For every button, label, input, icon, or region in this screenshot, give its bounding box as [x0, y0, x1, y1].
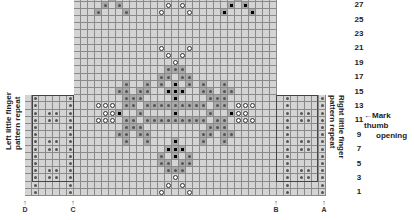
grid-cell: [130, 0, 137, 2]
grid-cell: [179, 45, 186, 52]
grid-cell: [263, 66, 270, 73]
grid-cell: [186, 102, 193, 109]
grid-cell: [214, 153, 221, 160]
grid-cell: [207, 138, 214, 145]
grid-cell: [256, 38, 263, 45]
grid-cell: [193, 2, 200, 9]
dot-stitch-icon: [321, 112, 324, 115]
dot-stitch-icon: [223, 97, 226, 100]
dot-stitch-icon: [34, 104, 37, 107]
dot-stitch-icon: [146, 104, 149, 107]
dot-stitch-icon: [160, 162, 163, 165]
grid-cell: [172, 131, 179, 138]
dot-stitch-icon: [97, 11, 100, 14]
dot-stitch-icon: [286, 148, 289, 151]
grid-cell: [298, 95, 305, 102]
dot-stitch-icon: [286, 176, 289, 179]
grid-cell: [179, 2, 186, 9]
grid-cell: [165, 81, 172, 88]
grid-cell: [221, 189, 228, 196]
grid-cell: [25, 138, 32, 145]
dot-stitch-icon: [230, 133, 233, 136]
grid-cell: [116, 189, 123, 196]
grid-cell: [158, 146, 165, 153]
grid-cell: [102, 81, 109, 88]
grid-cell: [130, 45, 137, 52]
grid-cell: [165, 182, 172, 189]
grid-cell: [88, 167, 95, 174]
grid-cell: [116, 81, 123, 88]
row-label: 1: [352, 187, 366, 196]
grid-cell: [214, 110, 221, 117]
grid-cell: [298, 124, 305, 131]
grid-cell: [123, 138, 130, 145]
left-label: Left little finger pattern repeat: [4, 92, 22, 150]
grid-cell: [158, 117, 165, 124]
dot-stitch-icon: [216, 104, 219, 107]
grid-cell: [25, 189, 32, 196]
dot-stitch-icon: [69, 104, 72, 107]
grid-cell: [312, 160, 319, 167]
dot-stitch-icon: [223, 133, 226, 136]
grid-cell: [249, 95, 256, 102]
grid-cell: [221, 0, 228, 2]
grid-cell: [102, 182, 109, 189]
dot-stitch-icon: [195, 104, 198, 107]
grid-cell: [186, 74, 193, 81]
marker-c: ↑C: [68, 199, 78, 213]
grid-cell: [291, 102, 298, 109]
grid-cell: [179, 117, 186, 124]
grid-cell: [242, 138, 249, 145]
grid-cell: [207, 81, 214, 88]
grid-cell: [95, 59, 102, 66]
grid-cell: [256, 9, 263, 16]
dot-stitch-icon: [69, 119, 72, 122]
black-stitch-icon: [118, 112, 121, 115]
grid-cell: [53, 189, 60, 196]
grid-cell: [214, 0, 221, 2]
grid-cell: [256, 95, 263, 102]
grid-cell: [60, 167, 67, 174]
grid-cell: [221, 59, 228, 66]
grid-cell: [312, 95, 319, 102]
grid-cell: [193, 45, 200, 52]
grid-cell: [165, 59, 172, 66]
dot-stitch-icon: [125, 11, 128, 14]
left-label-line1: Left little finger: [4, 92, 13, 150]
grid-cell: [270, 23, 277, 30]
grid-cell: [305, 124, 312, 131]
grid-cell: [312, 124, 319, 131]
grid-cell: [228, 16, 235, 23]
grid-cell: [256, 182, 263, 189]
grid-cell: [249, 81, 256, 88]
grid-cell: [298, 110, 305, 117]
grid-cell: [256, 110, 263, 117]
grid-cell: [25, 182, 32, 189]
dot-stitch-icon: [174, 169, 177, 172]
grid-cell: [81, 124, 88, 131]
dot-stitch-icon: [34, 184, 37, 187]
grid-cell: [179, 124, 186, 131]
grid-cell: [172, 23, 179, 30]
grid-cell: [137, 9, 144, 16]
grid-cell: [270, 160, 277, 167]
grid-cell: [144, 9, 151, 16]
grid-cell: [32, 160, 39, 167]
dot-stitch-icon: [69, 148, 72, 151]
grid-cell: [95, 38, 102, 45]
grid-cell: [74, 52, 81, 59]
grid-cell: [207, 23, 214, 30]
grid-cell: [81, 182, 88, 189]
grid-cell: [95, 182, 102, 189]
grid-cell: [102, 117, 109, 124]
grid-cell: [172, 88, 179, 95]
grid-cell: [25, 146, 32, 153]
grid-cell: [256, 146, 263, 153]
grid-cell: [207, 88, 214, 95]
ring-stitch-icon: [180, 53, 185, 58]
grid-cell: [319, 95, 326, 102]
grid-cell: [221, 124, 228, 131]
grid-cell: [228, 160, 235, 167]
grid-cell: [200, 153, 207, 160]
grid-cell: [305, 174, 312, 181]
